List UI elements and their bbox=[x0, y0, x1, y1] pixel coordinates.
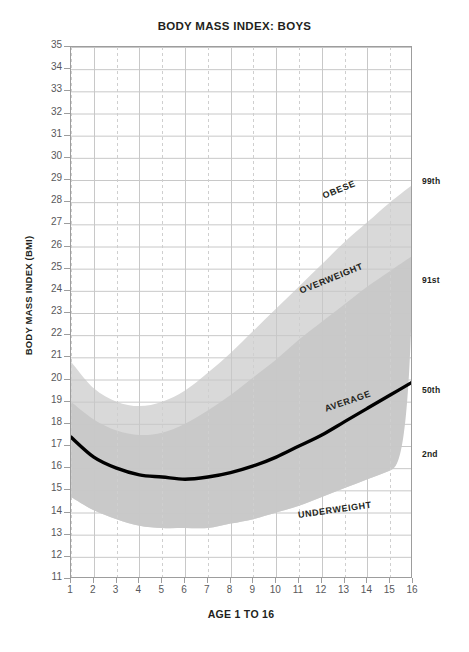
x-axis-tick-mark bbox=[298, 578, 299, 583]
x-axis-tick-mark bbox=[70, 578, 71, 583]
x-axis-tick-mark bbox=[252, 578, 253, 583]
percentile-label-50th: 50th bbox=[422, 385, 440, 395]
x-axis-tick-mark bbox=[207, 578, 208, 583]
x-axis-tick-mark bbox=[116, 578, 117, 583]
y-axis-tick-label: 12 bbox=[36, 549, 62, 560]
y-axis-tick-label: 19 bbox=[36, 394, 62, 405]
y-axis-tick-label: 21 bbox=[36, 349, 62, 360]
x-axis-tick-mark bbox=[366, 578, 367, 583]
x-axis-tick-label: 12 bbox=[309, 584, 333, 595]
x-axis-tick-mark bbox=[344, 578, 345, 583]
band-2nd-to-91st bbox=[71, 255, 412, 528]
x-axis-tick-mark bbox=[389, 578, 390, 583]
x-axis-tick-mark bbox=[275, 578, 276, 583]
y-axis-tick-mark bbox=[64, 578, 70, 579]
x-axis-tick-label: 10 bbox=[263, 584, 287, 595]
x-axis-tick-label: 11 bbox=[286, 584, 310, 595]
x-axis-tick-label: 4 bbox=[126, 584, 150, 595]
x-axis-tick-label: 15 bbox=[377, 584, 401, 595]
plot-area bbox=[70, 46, 412, 578]
y-axis-tick-label: 28 bbox=[36, 194, 62, 205]
x-axis-tick-label: 7 bbox=[195, 584, 219, 595]
percentile-label-91st: 91st bbox=[422, 275, 440, 285]
x-axis-title: AGE 1 TO 16 bbox=[70, 608, 412, 620]
x-axis-tick-label: 2 bbox=[81, 584, 105, 595]
y-axis-tick-label: 22 bbox=[36, 327, 62, 338]
y-axis-tick-label: 14 bbox=[36, 505, 62, 516]
x-axis-tick-label: 13 bbox=[332, 584, 356, 595]
x-axis-tick-label: 16 bbox=[400, 584, 424, 595]
x-axis-tick-label: 8 bbox=[218, 584, 242, 595]
x-axis-tick-label: 1 bbox=[58, 584, 82, 595]
percentile-label-99th: 99th bbox=[422, 176, 440, 186]
chart-title: BODY MASS INDEX: BOYS bbox=[0, 20, 469, 32]
bmi-chart: BODY MASS INDEX: BOYS BODY MASS INDEX (B… bbox=[0, 0, 469, 652]
x-axis-tick-label: 3 bbox=[104, 584, 128, 595]
y-axis-tick-label: 32 bbox=[36, 106, 62, 117]
y-axis-tick-label: 33 bbox=[36, 83, 62, 94]
y-axis-tick-label: 13 bbox=[36, 527, 62, 538]
x-axis-tick-label: 5 bbox=[149, 584, 173, 595]
y-axis-tick-label: 20 bbox=[36, 372, 62, 383]
y-axis-tick-label: 26 bbox=[36, 239, 62, 250]
percentile-bands bbox=[71, 184, 412, 528]
y-axis-tick-label: 15 bbox=[36, 482, 62, 493]
x-axis-tick-mark bbox=[321, 578, 322, 583]
y-axis-tick-label: 16 bbox=[36, 460, 62, 471]
x-axis-tick-mark bbox=[230, 578, 231, 583]
y-axis-tick-label: 31 bbox=[36, 128, 62, 139]
percentile-label-2nd: 2nd bbox=[422, 449, 438, 459]
x-axis-tick-mark bbox=[412, 578, 413, 583]
y-axis-tick-label: 34 bbox=[36, 61, 62, 72]
y-axis-tick-label: 27 bbox=[36, 216, 62, 227]
x-axis-tick-mark bbox=[184, 578, 185, 583]
y-axis-tick-label: 25 bbox=[36, 261, 62, 272]
x-axis-tick-mark bbox=[138, 578, 139, 583]
x-axis-tick-mark bbox=[93, 578, 94, 583]
y-axis-tick-label: 24 bbox=[36, 283, 62, 294]
x-axis-tick-label: 9 bbox=[240, 584, 264, 595]
y-axis-tick-label: 30 bbox=[36, 150, 62, 161]
x-axis-tick-label: 14 bbox=[354, 584, 378, 595]
y-axis-tick-label: 23 bbox=[36, 305, 62, 316]
y-axis-tick-label: 11 bbox=[36, 571, 62, 582]
y-axis-tick-label: 29 bbox=[36, 172, 62, 183]
x-axis-tick-mark bbox=[161, 578, 162, 583]
y-axis-tick-label: 35 bbox=[36, 39, 62, 50]
y-axis-tick-label: 17 bbox=[36, 438, 62, 449]
y-axis-title: BODY MASS INDEX (BMI) bbox=[23, 196, 34, 396]
plot-svg bbox=[71, 47, 412, 578]
x-axis-tick-label: 6 bbox=[172, 584, 196, 595]
y-axis-tick-label: 18 bbox=[36, 416, 62, 427]
